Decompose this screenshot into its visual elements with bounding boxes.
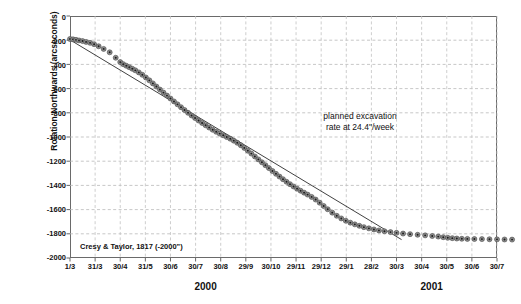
y-tick-label: -600 [32, 85, 66, 94]
plot-area [70, 16, 497, 258]
y-tick-label: -1000 [32, 133, 66, 142]
x-tick-label: 30/7 [480, 262, 514, 271]
annotation-line-2: rate at 24.4"/week [286, 122, 434, 133]
x-axis-group-label-2000: 2000 [166, 281, 246, 292]
y-tick-label: -1600 [32, 205, 66, 214]
y-tick-label: -800 [32, 109, 66, 118]
annotation-line-1: planned excavation [323, 111, 396, 121]
y-tick-label: -1200 [32, 157, 66, 166]
x-axis-group-label-2001: 2001 [392, 281, 472, 292]
source-reference-note: Cresy & Taylor, 1817 (-2000") [80, 242, 183, 251]
rotation-vs-date-chart: Rotation Northwards (arcseconds) 0 -200 … [0, 0, 521, 304]
y-tick-label: -2000 [32, 253, 66, 262]
y-axis-ticks: 0 -200 -400 -600 -800 -1000 -1200 -1400 … [30, 0, 66, 258]
y-tick-label: -1800 [32, 229, 66, 238]
planned-rate-annotation: planned excavation rate at 24.4"/week [286, 111, 434, 133]
y-tick-label: -1400 [32, 181, 66, 190]
y-tick-label: 0 [32, 13, 66, 22]
x-axis-ticks: 1/3 31/3 30/4 31/5 30/6 30/7 30/8 29/9 3… [0, 262, 521, 278]
y-tick-label: -200 [32, 37, 66, 46]
y-tick-label: -400 [32, 61, 66, 70]
